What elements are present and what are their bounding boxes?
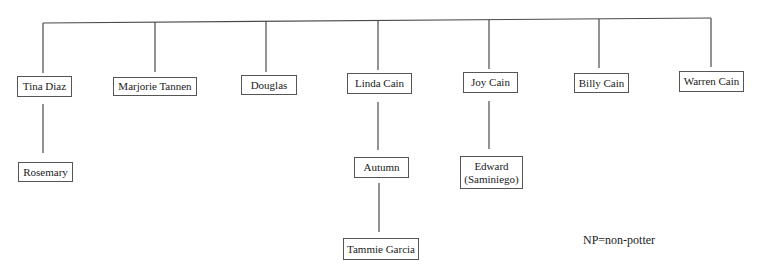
node-label-line1: Edward [474, 160, 508, 173]
node-label: Douglas [251, 79, 288, 92]
node-linda-cain: Linda Cain [347, 73, 412, 94]
legend-note: NP=non-potter [583, 233, 655, 248]
node-label: Tammie Garcia [347, 243, 415, 256]
node-douglas: Douglas [241, 75, 297, 95]
node-warren-cain: Warren Cain [679, 71, 744, 92]
node-label: Marjorie Tannen [118, 80, 191, 93]
node-label: Billy Cain [579, 77, 625, 90]
node-autumn: Autumn [354, 157, 409, 178]
node-joy-cain: Joy Cain [463, 72, 518, 93]
node-label: Autumn [363, 161, 399, 174]
node-tammie-garcia: Tammie Garcia [343, 238, 419, 260]
node-label-line2: (Saminiego) [464, 173, 518, 186]
node-label: Linda Cain [355, 77, 404, 90]
node-tina-diaz: Tina Diaz [17, 76, 72, 97]
node-label: Warren Cain [684, 75, 740, 88]
node-marjorie-tannen: Marjorie Tannen [113, 77, 197, 96]
node-label: Joy Cain [471, 76, 510, 89]
node-billy-cain: Billy Cain [574, 73, 629, 93]
family-tree-diagram: Tina Diaz Marjorie Tannen Douglas Linda … [0, 0, 763, 274]
node-label: Rosemary [23, 166, 68, 179]
node-rosemary: Rosemary [18, 162, 73, 182]
sibling-bar [43, 18, 711, 23]
node-edward-saminiego: Edward (Saminiego) [460, 156, 523, 189]
node-label: Tina Diaz [23, 80, 66, 93]
